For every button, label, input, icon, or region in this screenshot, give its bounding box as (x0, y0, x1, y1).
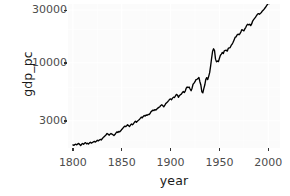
plot-panel (68, 4, 280, 148)
gridlines-minor (68, 4, 280, 148)
y-tick-mark (64, 62, 67, 64)
y-tick-mark (64, 120, 67, 122)
gridlines-major (68, 4, 280, 148)
x-tick-label: 2000 (245, 157, 290, 168)
y-tick-label: 10000 (7, 57, 67, 68)
y-tick-label: 3000 (7, 115, 67, 126)
x-tick-label: 1900 (148, 157, 194, 168)
x-tick-mark (268, 148, 270, 151)
gdp-per-capita-chart: gdp_pc 30001000030000 180018501900195020… (0, 0, 290, 196)
x-tick-label: 1850 (99, 157, 145, 168)
y-tick-mark (64, 10, 67, 12)
x-tick-mark (170, 148, 172, 151)
y-tick-label: 30000 (7, 4, 67, 15)
x-tick-label: 1950 (196, 157, 242, 168)
x-tick-label: 1800 (50, 157, 96, 168)
x-axis-title: year (68, 173, 280, 188)
series-line-gdp-pc (73, 4, 278, 146)
x-tick-mark (121, 148, 123, 151)
x-tick-mark (219, 148, 221, 151)
x-tick-mark (72, 148, 74, 151)
plot-area (68, 4, 280, 148)
